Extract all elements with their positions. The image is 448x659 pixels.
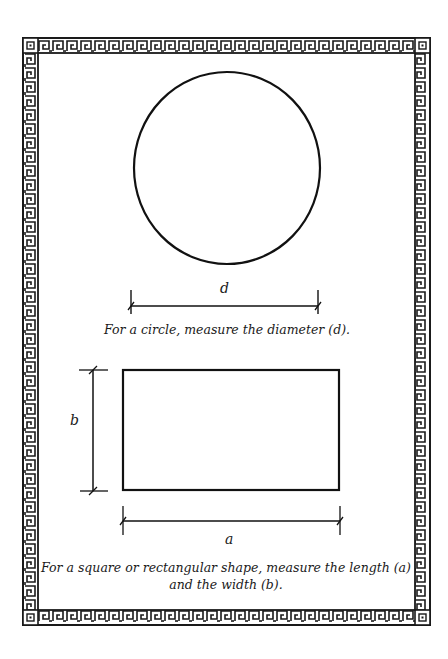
rectangle-caption-line-1: For a square or rectangular shape, measu…: [40, 559, 412, 576]
circle-caption: For a circle, measure the diameter (d).: [60, 321, 394, 338]
diameter-label: d: [220, 280, 229, 296]
length-a-label: a: [225, 531, 233, 547]
corner-square-icon: [415, 38, 430, 53]
width-b-label: b: [70, 412, 79, 428]
diagram-page: d For a circle, measure the diameter (d)…: [0, 0, 448, 659]
corner-square-icon: [23, 610, 38, 625]
width-b-dimension-line: [79, 366, 108, 495]
rectangle-caption: For a square or rectangular shape, measu…: [40, 559, 412, 593]
corner-square-icon: [23, 38, 38, 53]
rectangle-caption-line-2: and the width (b).: [40, 576, 412, 593]
corner-square-icon: [415, 610, 430, 625]
rectangle-shape: [123, 370, 339, 490]
circle-shape: [134, 72, 320, 264]
